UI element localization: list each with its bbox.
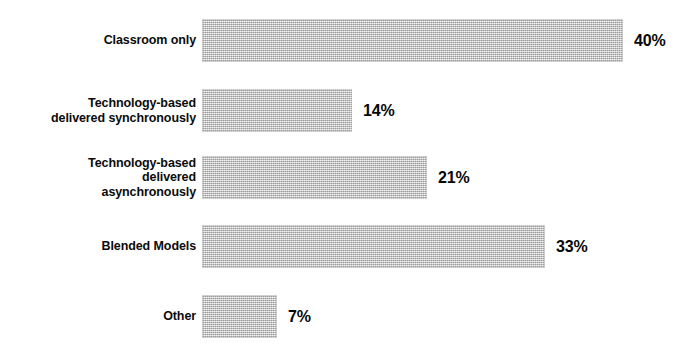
bar-wrapper: 7% [202, 295, 681, 338]
bar-row: Other 7% [0, 295, 681, 338]
bar-value-label: 33% [556, 238, 587, 256]
category-label: Blended Models [0, 239, 196, 254]
bar-classroom-only [202, 19, 623, 62]
category-label: Other [0, 309, 196, 324]
bar-row: Classroom only 40% [0, 19, 681, 62]
bar-other [202, 295, 277, 338]
horizontal-bar-chart: Classroom only 40% Technology-based deli… [0, 0, 681, 359]
bar-value-label: 21% [438, 169, 469, 187]
category-label: Classroom only [0, 33, 196, 48]
category-label: Technology-based delivered synchronously [0, 96, 196, 125]
bar-technology-based-asynchronous [202, 156, 427, 199]
category-label: Technology-based delivered asynchronousl… [0, 156, 196, 200]
bar-technology-based-synchronous [202, 89, 352, 132]
bar-blended-models [202, 225, 545, 268]
bar-value-label: 14% [363, 102, 394, 120]
bar-value-label: 40% [634, 32, 665, 50]
bar-row: Blended Models 33% [0, 225, 681, 268]
bar-row: Technology-based delivered asynchronousl… [0, 156, 681, 199]
bar-value-label: 7% [288, 308, 311, 326]
bar-wrapper: 40% [202, 19, 681, 62]
bar-row: Technology-based delivered synchronously… [0, 89, 681, 132]
bar-wrapper: 21% [202, 156, 681, 199]
bar-wrapper: 14% [202, 89, 681, 132]
bar-wrapper: 33% [202, 225, 681, 268]
